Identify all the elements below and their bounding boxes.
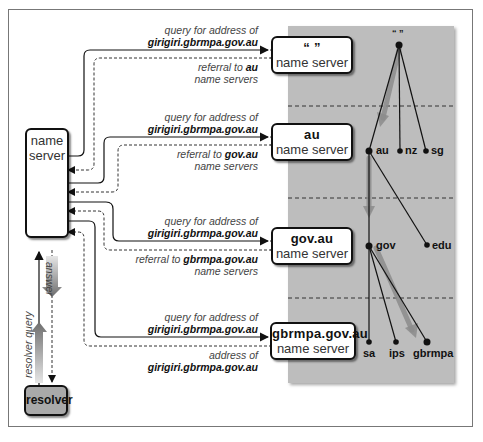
answer-label: answer [44,262,56,296]
reply-label-root-domain: au [246,61,258,73]
query-label-root: query for address of girigiri.gbrmpa.gov… [148,24,258,48]
reply-label-au-prefix: referral to [177,148,225,160]
reply-label-gbrmpa-domain: girigiri.gbrmpa.gov.au [148,361,258,373]
tree-node-gbrmpa: gbrmpa [413,347,453,359]
query-label-au-domain: girigiri.gbrmpa.gov.au [148,123,258,135]
reply-label-gov-au-domain: gbrmpa.gov.au [183,253,258,265]
gov-au-name-server-title: gov.au [273,231,351,246]
reply-label-au-line2: name servers [177,160,258,172]
query-label-gbrmpa-domain: girigiri.gbrmpa.gov.au [148,323,258,335]
local-name-server-line2: server [27,148,67,163]
local-name-server-line1: name [27,133,67,148]
reply-label-gbrmpa: address of girigiri.gbrmpa.gov.au [148,349,258,373]
gbrmpa-name-server-subtitle: name server [272,341,354,356]
au-name-server-title: au [273,127,351,142]
tree-node-edu: edu [432,239,452,251]
reply-label-root-line2: name servers [194,73,258,85]
query-label-gov-au: query for address of girigiri.gbrmpa.gov… [148,215,258,239]
query-label-gov-au-line1: query for address of [148,215,258,227]
query-label-gbrmpa-line1: query for address of [148,311,258,323]
tree-node-root: “ ” [392,28,404,38]
reply-label-gov-au: referral to gbrmpa.gov.au name servers [135,253,258,277]
query-label-root-domain: girigiri.gbrmpa.gov.au [148,36,258,48]
tree-node-sg: sg [431,144,444,156]
gov-au-name-server-subtitle: name server [273,246,351,261]
tree-node-ips: ips [389,347,405,359]
reply-label-au-domain: gov.au [225,148,258,160]
root-name-server-subtitle: name server [273,55,351,70]
reply-label-gov-au-prefix: referral to [135,253,183,265]
query-label-gbrmpa: query for address of girigiri.gbrmpa.gov… [148,311,258,335]
gov-au-name-server: gov.au name server [271,227,353,265]
reply-label-gov-au-line2: name servers [135,265,258,277]
resolver-box: resolver [24,385,68,416]
local-name-server: name server [25,128,69,238]
tree-node-au: au [376,144,389,156]
query-label-gov-au-domain: girigiri.gbrmpa.gov.au [148,227,258,239]
root-name-server-title: “ ” [273,40,351,55]
root-name-server: “ ” name server [271,36,353,74]
query-label-root-line1: query for address of [148,24,258,36]
tree-node-gov: gov [376,239,396,251]
au-name-server: au name server [271,123,353,161]
reply-label-au: referral to gov.au name servers [177,148,258,172]
tree-node-sa: sa [363,347,375,359]
gbrmpa-name-server-title: gbrmpa.gov.au [272,326,354,341]
gbrmpa-name-server: gbrmpa.gov.au name server [270,322,356,360]
query-label-au-line1: query for address of [148,111,258,123]
reply-label-root: referral to au name servers [194,61,258,85]
au-name-server-subtitle: name server [273,142,351,157]
query-label-au: query for address of girigiri.gbrmpa.gov… [148,111,258,135]
reply-label-gbrmpa-line1: address of [148,349,258,361]
tree-node-nz: nz [405,144,417,156]
resolver-query-label: resolver query [22,311,34,378]
reply-label-root-prefix: referral to [198,61,246,73]
